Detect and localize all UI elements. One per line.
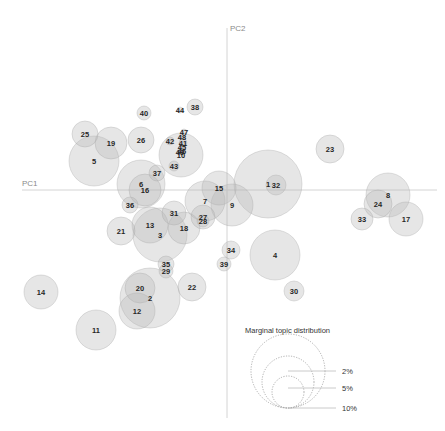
topic-label: 39 xyxy=(220,260,228,269)
topic-label: 26 xyxy=(137,136,145,145)
topic-label: 7 xyxy=(203,197,207,206)
legend-title: Marginal topic distribution xyxy=(245,326,330,335)
legend-circle-5pct xyxy=(262,356,314,408)
topic-label: 28 xyxy=(199,217,207,226)
topic-label: 31 xyxy=(170,209,178,218)
legend: Marginal topic distribution 2% 5% 10% xyxy=(245,326,357,413)
topic-label: 19 xyxy=(107,139,115,148)
topic-label: 17 xyxy=(402,215,410,224)
topic-label: 38 xyxy=(191,103,199,112)
topic-label: 21 xyxy=(117,227,125,236)
topic-label: 33 xyxy=(358,215,366,224)
topic-label: 30 xyxy=(290,287,298,296)
topic-label: 18 xyxy=(180,224,188,233)
topic-label: 15 xyxy=(215,184,223,193)
topic-label: 22 xyxy=(188,283,196,292)
legend-label-5pct: 5% xyxy=(342,384,353,393)
topic-label: 1 xyxy=(266,180,270,189)
legend-label-2pct: 2% xyxy=(342,367,353,376)
pc1-axis-label: PC1 xyxy=(22,179,38,188)
topic-label: 2 xyxy=(148,294,152,303)
topic-label: 14 xyxy=(37,288,46,297)
topic-label: 23 xyxy=(326,145,334,154)
legend-label-10pct: 10% xyxy=(342,404,357,413)
topic-label: 36 xyxy=(126,201,134,210)
topic-label: 42 xyxy=(166,137,174,146)
topic-label: 43 xyxy=(170,162,178,171)
topic-label: 44 xyxy=(176,106,185,115)
topic-label: 49 xyxy=(176,148,184,157)
topic-label: 11 xyxy=(92,326,100,335)
topic-label: 48 xyxy=(178,133,186,142)
topic-bubble-chart: PC1 PC2 13223456167824910111213141517181… xyxy=(0,0,445,431)
topic-label: 37 xyxy=(153,169,161,178)
topic-label: 9 xyxy=(230,201,234,210)
topic-label: 20 xyxy=(136,284,144,293)
legend-circle-2pct xyxy=(272,376,304,408)
topic-label: 40 xyxy=(140,109,148,118)
topic-label: 13 xyxy=(146,221,154,230)
topic-label: 32 xyxy=(272,181,280,190)
topic-label: 8 xyxy=(386,191,390,200)
topic-label: 12 xyxy=(133,307,141,316)
topic-label: 16 xyxy=(141,186,149,195)
topic-label: 24 xyxy=(374,200,383,209)
topic-label: 34 xyxy=(227,246,236,255)
pc2-axis-label: PC2 xyxy=(230,24,246,33)
topic-label: 35 xyxy=(162,260,170,269)
topic-label: 5 xyxy=(92,157,96,166)
topic-label: 25 xyxy=(81,130,89,139)
topic-label: 3 xyxy=(158,231,162,240)
